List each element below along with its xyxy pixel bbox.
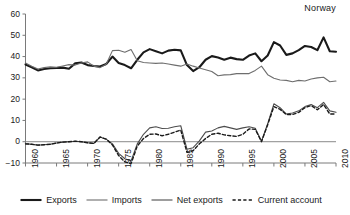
y-tick-label: 20 [0, 94, 20, 104]
y-tick-label: 0 [0, 136, 20, 146]
legend-item-imports[interactable]: Imports [86, 195, 142, 205]
x-tick-label: 1965 [61, 149, 71, 168]
legend-item-exports[interactable]: Exports [20, 195, 77, 205]
y-tick-label: 30 [0, 72, 20, 82]
x-tick-label: 1975 [123, 149, 133, 168]
y-tick-label: 40 [0, 51, 20, 61]
x-tick-label: 1995 [247, 149, 257, 168]
x-tick-label: 1960 [30, 149, 40, 168]
legend-item-current-account[interactable]: Current account [232, 195, 322, 205]
x-tick-label: 2000 [278, 149, 288, 168]
x-tick-label: 2010 [340, 149, 350, 168]
legend-label: Imports [112, 195, 142, 205]
legend-swatch-current-account [232, 196, 254, 204]
x-tick-label: 1990 [216, 149, 226, 168]
legend-label: Exports [46, 195, 77, 205]
y-tick-label: 60 [0, 9, 20, 19]
chart-legend: ExportsImportsNet exportsCurrent account [0, 195, 342, 205]
legend-label: Current account [258, 195, 322, 205]
x-tick-label: 1980 [154, 149, 164, 168]
y-tick-label: −10 [0, 158, 20, 168]
legend-swatch-imports [86, 196, 108, 204]
legend-item-net-exports[interactable]: Net exports [151, 195, 223, 205]
legend-swatch-net-exports [151, 196, 173, 204]
legend-label: Net exports [177, 195, 223, 205]
y-tick-label: 50 [0, 30, 20, 40]
y-tick-label: 10 [0, 115, 20, 125]
x-tick-label: 1970 [92, 149, 102, 168]
x-tick-label: 1985 [185, 149, 195, 168]
x-tick-label: 2005 [309, 149, 319, 168]
legend-swatch-exports [20, 196, 42, 204]
